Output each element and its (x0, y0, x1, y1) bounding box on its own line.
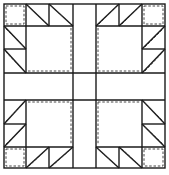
sashing-lines (4, 4, 165, 168)
block-bottom-right (96, 100, 165, 168)
block-top-right (96, 4, 165, 73)
block-bottom-left (4, 100, 73, 168)
quilt-block-diagram (0, 0, 169, 175)
outer-border (4, 4, 165, 168)
block-top-left (4, 4, 73, 73)
